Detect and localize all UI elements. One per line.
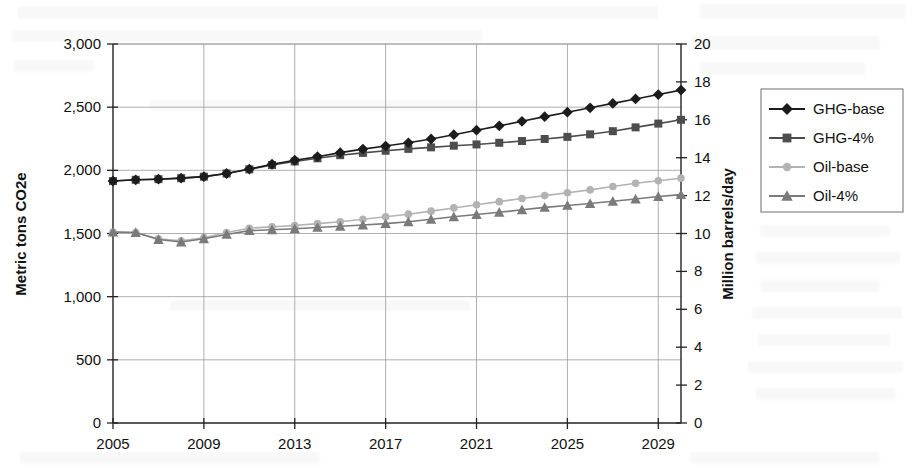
legend-marker-square-icon [783, 134, 792, 143]
y2-tick-label: 4 [694, 338, 702, 355]
y2-tick-label: 6 [694, 300, 702, 317]
y2-tick-label: 18 [694, 73, 711, 90]
data-point-marker [653, 89, 664, 100]
y2-tick-label: 0 [694, 414, 702, 431]
y-tick-label: 0 [93, 414, 101, 431]
legend-marker-circle-icon [783, 163, 791, 171]
grid [113, 44, 681, 423]
series-line [113, 195, 681, 242]
data-point-marker [564, 189, 572, 197]
data-point-marker [541, 192, 549, 200]
x-axis-tick-labels: 2005200920132017202120252029 [96, 435, 675, 452]
data-point-marker [450, 204, 458, 212]
y2-tick-label: 12 [694, 187, 711, 204]
data-point-marker [586, 186, 594, 194]
x-tick-label: 2025 [551, 435, 584, 452]
data-point-marker [473, 140, 481, 148]
x-tick-label: 2013 [278, 435, 311, 452]
data-point-marker [495, 198, 503, 206]
series-oil-base [109, 174, 685, 244]
y2-tick-label: 10 [694, 225, 711, 242]
series-line [113, 90, 681, 181]
data-point-marker [517, 116, 528, 127]
legend-label: Oil-4% [813, 187, 858, 204]
x-tick-label: 2017 [369, 435, 402, 452]
tick-marks [107, 44, 687, 429]
y2-tick-label: 16 [694, 111, 711, 128]
series-line [113, 178, 681, 241]
chart-plot: 05001,0001,5002,0002,5003,000 0246810121… [0, 0, 917, 476]
y-axis-tick-labels: 05001,0001,5002,0002,5003,000 [63, 35, 101, 431]
data-point-marker [585, 102, 596, 113]
data-point-marker [495, 139, 503, 147]
data-point-marker [473, 201, 481, 209]
data-point-marker [427, 207, 435, 215]
y2-tick-label: 14 [694, 149, 711, 166]
legend-label: GHG-base [813, 100, 885, 117]
legend-label: GHG-4% [813, 129, 874, 146]
y-tick-label: 500 [76, 351, 101, 368]
data-point-marker [448, 129, 459, 140]
data-point-marker [609, 183, 617, 191]
y2-axis-tick-labels: 02468101214161820 [694, 35, 711, 431]
series-oil-4- [108, 189, 686, 246]
y2-axis-title: Million barrels/day [719, 167, 736, 299]
data-point-marker [676, 85, 687, 96]
data-point-marker [632, 123, 640, 131]
y-tick-label: 2,500 [63, 98, 101, 115]
y2-tick-label: 20 [694, 35, 711, 52]
data-point-marker [562, 107, 573, 118]
data-point-marker [518, 137, 526, 145]
y-tick-label: 3,000 [63, 35, 101, 52]
data-point-marker [471, 125, 482, 136]
data-point-marker [677, 116, 685, 124]
x-tick-label: 2029 [642, 435, 675, 452]
y2-tick-label: 2 [694, 376, 702, 393]
data-point-marker [518, 195, 526, 203]
data-point-marker [632, 179, 640, 187]
data-point-marker [630, 94, 641, 105]
data-point-marker [677, 174, 685, 182]
data-point-marker [654, 120, 662, 128]
y-tick-label: 2,000 [63, 161, 101, 178]
series-ghg-base [108, 85, 687, 187]
data-point-marker [654, 177, 662, 185]
x-tick-label: 2005 [96, 435, 129, 452]
series-line [113, 120, 681, 181]
y2-tick-label: 8 [694, 262, 702, 279]
data-point-marker [586, 130, 594, 138]
data-point-marker [494, 120, 505, 131]
data-series-group [108, 85, 687, 247]
data-point-marker [539, 111, 550, 122]
x-tick-label: 2009 [187, 435, 220, 452]
data-point-marker [563, 133, 571, 141]
legend-label: Oil-base [813, 158, 869, 175]
data-point-marker [609, 127, 617, 135]
data-point-marker [450, 142, 458, 150]
data-point-marker [426, 134, 437, 145]
y-tick-label: 1,500 [63, 225, 101, 242]
chart-legend: GHG-baseGHG-4%Oil-baseOil-4% [761, 89, 903, 212]
series-ghg-4- [109, 116, 685, 185]
y-axis-title: Metric tons CO2e [12, 172, 29, 295]
data-point-marker [541, 135, 549, 143]
y-tick-label: 1,000 [63, 288, 101, 305]
chart-figure: 05001,0001,5002,0002,5003,000 0246810121… [0, 0, 917, 476]
x-tick-label: 2021 [460, 435, 493, 452]
data-point-marker [427, 143, 435, 151]
